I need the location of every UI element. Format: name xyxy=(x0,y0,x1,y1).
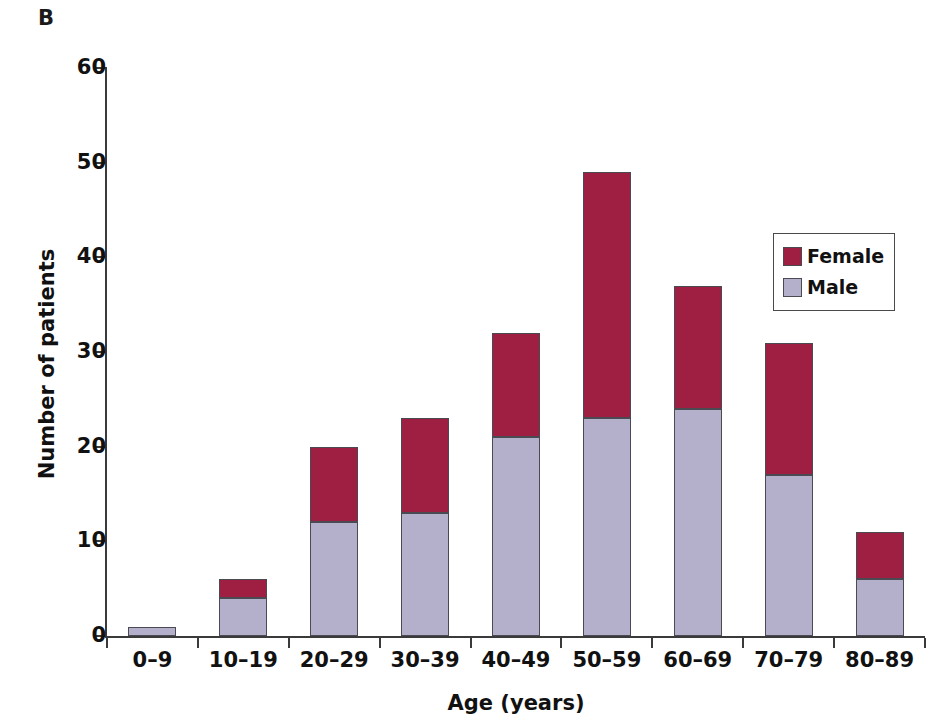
y-tick-label-0: 0 xyxy=(36,623,106,647)
legend-item-male[interactable]: Male xyxy=(783,272,894,303)
x-axis-start-cap xyxy=(106,638,108,648)
legend-label-male: Male xyxy=(807,278,858,297)
bar-segment-male[interactable] xyxy=(492,437,540,636)
legend-item-female[interactable]: Female xyxy=(783,241,894,272)
legend-swatch-female xyxy=(783,247,802,266)
bar-segment-female[interactable] xyxy=(765,343,813,476)
bar-segment-female[interactable] xyxy=(492,333,540,437)
x-axis-line xyxy=(105,636,925,638)
x-tick-boundary xyxy=(651,638,653,648)
x-axis-title: Age (years) xyxy=(107,691,925,715)
x-tick-label-2: 10–19 xyxy=(198,648,289,672)
x-tick-boundary xyxy=(379,638,381,648)
bar-group[interactable] xyxy=(674,68,722,636)
legend-label-female: Female xyxy=(807,247,884,266)
x-tick-boundary xyxy=(833,638,835,648)
legend-swatch-male xyxy=(783,278,802,297)
bar-segment-female[interactable] xyxy=(310,447,358,523)
x-tick-label-8: 70–79 xyxy=(743,648,834,672)
y-tick-label-60: 60 xyxy=(36,55,106,79)
x-tick-label-9: 80–89 xyxy=(834,648,925,672)
x-tick-label-4: 30–39 xyxy=(380,648,471,672)
panel-label: B xyxy=(38,6,54,30)
bar-group[interactable] xyxy=(310,68,358,636)
bar-segment-male[interactable] xyxy=(856,579,904,636)
bar-group[interactable] xyxy=(219,68,267,636)
x-tick-boundary xyxy=(197,638,199,648)
bar-segment-male[interactable] xyxy=(765,475,813,636)
bar-segment-female[interactable] xyxy=(401,418,449,513)
bar-group[interactable] xyxy=(128,68,176,636)
y-tick-label-30: 30 xyxy=(36,339,106,363)
bar-segment-male[interactable] xyxy=(219,598,267,636)
y-tick-label-50: 50 xyxy=(36,150,106,174)
bar-segment-female[interactable] xyxy=(674,286,722,409)
x-tick-label-6: 50–59 xyxy=(561,648,652,672)
y-tick-label-10: 10 xyxy=(36,528,106,552)
bar-segment-male[interactable] xyxy=(674,409,722,636)
x-tick-label-3: 20–29 xyxy=(289,648,380,672)
x-tick-label-1: 0–9 xyxy=(107,648,198,672)
x-tick-boundary xyxy=(288,638,290,648)
x-tick-boundary xyxy=(470,638,472,648)
x-tick-boundary xyxy=(742,638,744,648)
y-tick-label-40: 40 xyxy=(36,244,106,268)
y-tick-label-20: 20 xyxy=(36,434,106,458)
bar-segment-female[interactable] xyxy=(856,532,904,579)
x-tick-label-5: 40–49 xyxy=(471,648,562,672)
x-axis-end-cap xyxy=(924,638,926,648)
bar-segment-male[interactable] xyxy=(128,627,176,636)
legend: Female Male xyxy=(773,233,895,311)
bar-group[interactable] xyxy=(583,68,631,636)
bar-group[interactable] xyxy=(765,68,813,636)
bar-segment-male[interactable] xyxy=(583,418,631,636)
bar-segment-male[interactable] xyxy=(310,522,358,636)
bar-segment-female[interactable] xyxy=(219,579,267,598)
bar-group[interactable] xyxy=(856,68,904,636)
plot-area xyxy=(107,68,925,636)
x-tick-boundary xyxy=(560,638,562,648)
bar-segment-female[interactable] xyxy=(583,172,631,418)
x-tick-label-7: 60–69 xyxy=(652,648,743,672)
bar-group[interactable] xyxy=(401,68,449,636)
bar-group[interactable] xyxy=(492,68,540,636)
figure-panel-b: B Number of patients Age (years) 0102030… xyxy=(0,0,930,728)
bar-segment-male[interactable] xyxy=(401,513,449,636)
